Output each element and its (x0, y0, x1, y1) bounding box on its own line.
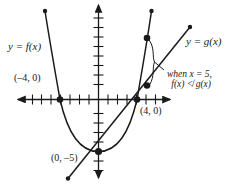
annotation-line-2: f(x) ≮ g(x) (167, 79, 212, 89)
point-plus4-label: (4, 0) (140, 105, 162, 117)
g-curve-label: y = g(x) (186, 35, 222, 48)
x-axis (18, 95, 170, 105)
curly-brace-icon (149, 40, 155, 85)
g-upper-endpoint-dot (188, 25, 192, 29)
graph-canvas (0, 0, 237, 186)
point-g-at-5-dot (144, 82, 151, 89)
f-left-endpoint-dot (43, 9, 47, 13)
f-curve-label: y = f(x) (8, 40, 41, 53)
point-minus4-dot (57, 96, 64, 103)
annotation-line-1: when x = 5, (167, 69, 212, 79)
point-plus4-dot (134, 96, 141, 103)
point-f-at-5-dot (144, 35, 151, 42)
point-vertex-dot (95, 148, 102, 155)
g-curve (68, 27, 190, 179)
f-right-endpoint-dot (149, 9, 153, 13)
point-vertex-label: (0, –5) (51, 152, 78, 164)
point-minus4-label: (–4, 0) (14, 72, 41, 84)
annotation-note: when x = 5, f(x) ≮ g(x) (167, 69, 212, 89)
graph-figure: y = f(x) y = g(x) (–4, 0) (4, 0) (0, –5)… (0, 0, 237, 186)
g-lower-endpoint-dot (66, 176, 70, 180)
